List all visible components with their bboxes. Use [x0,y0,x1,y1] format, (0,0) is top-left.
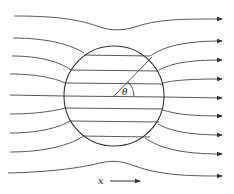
field-line-2-right [150,41,222,56]
inner-line-7 [70,121,159,122]
field-line-8-right [145,138,222,154]
inner-line-2 [84,55,150,56]
inner-line-8 [82,136,150,137]
inner-line-6 [65,108,163,109]
field-line-6-left [10,108,65,114]
field-line-4-left [10,74,65,83]
field-line-1 [14,16,222,30]
theta-label: θ [122,87,128,97]
x-axis-label: x [98,175,104,186]
inner-line-4 [65,83,163,84]
inner-line-5 [64,96,164,97]
field-line-2-left [13,38,84,53]
field-line-7-left [10,121,70,133]
field-line-5-right [164,97,222,98]
inner-line-3 [71,70,159,71]
field-line-6-right [163,110,222,116]
field-line-9 [8,161,222,176]
field-line-7-right [158,124,222,135]
field-line-5-left [10,95,64,96]
field-line-3-left [12,56,71,70]
field-line-8-left [10,137,82,152]
field-diagram: θ x [0,0,234,194]
field-line-4-right [163,79,222,83]
field-line-3-right [159,60,222,70]
